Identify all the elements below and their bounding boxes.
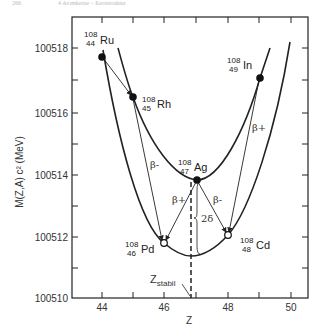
x-tick-label: 48	[222, 302, 234, 313]
left-ticks	[72, 48, 78, 268]
delta-label: 2δ	[201, 213, 213, 224]
svg-text:Cd: Cd	[256, 239, 270, 251]
decay-arrows	[103, 58, 259, 240]
label-cd: 108 48 Cd	[240, 236, 270, 254]
svg-text:Ag: Ag	[194, 161, 207, 173]
label-in: 108 49 In	[227, 56, 252, 74]
marker-ru	[98, 53, 106, 61]
z-stabil-label: Zstabil	[150, 273, 176, 288]
svg-text:48: 48	[242, 245, 251, 254]
marker-rh	[129, 93, 137, 101]
svg-text:108: 108	[240, 236, 254, 245]
y-tick-label: 100514	[35, 170, 69, 181]
chapter-title: 4 Atomkerne – Kernstruktur	[58, 0, 126, 6]
svg-text:108: 108	[125, 240, 139, 249]
x-tick-label: 46	[158, 302, 170, 313]
z-stabil-leader	[182, 284, 190, 296]
svg-text:47: 47	[180, 167, 189, 176]
y-axis-label: M(Z,A) c² (MeV)	[14, 136, 25, 208]
decay-label-in-cd: β+	[252, 122, 266, 133]
marker-in	[256, 74, 264, 82]
x-axis-label: Z	[186, 315, 192, 326]
label-pd: 108 46 Pd	[125, 240, 154, 258]
arrow-ag-cd	[198, 182, 226, 232]
top-ticks	[102, 17, 291, 23]
delta-brace	[194, 182, 200, 254]
x-tick-label: 50	[285, 302, 297, 313]
svg-text:108: 108	[84, 30, 98, 39]
right-ticks	[302, 48, 308, 268]
decay-label-ag-cd: β-	[213, 194, 222, 205]
svg-text:45: 45	[142, 104, 151, 113]
svg-text:108: 108	[178, 158, 192, 167]
bottom-ticks	[102, 292, 291, 298]
label-ag: 108 47 Ag	[178, 158, 207, 176]
decay-label-ag-pd: β+	[172, 194, 186, 205]
decay-label-rh-pd: β-	[150, 159, 159, 170]
svg-text:49: 49	[229, 65, 238, 74]
y-tick-label: 100516	[35, 108, 69, 119]
svg-text:In: In	[243, 59, 252, 71]
y-tick-label: 100510	[35, 293, 69, 304]
y-tick-label: 100512	[35, 232, 69, 243]
marker-cd	[225, 232, 232, 239]
page-number: 266	[12, 0, 21, 6]
marker-ag	[193, 176, 201, 184]
marker-pd	[161, 240, 168, 247]
x-tick-label: 44	[96, 302, 108, 313]
label-ru: 108 44 Ru	[84, 30, 114, 48]
svg-text:Rh: Rh	[157, 98, 171, 110]
y-tick-label: 100518	[35, 43, 69, 54]
label-rh: 108 45 Rh	[142, 95, 171, 113]
svg-text:44: 44	[86, 39, 95, 48]
svg-text:108: 108	[142, 95, 156, 104]
svg-text:Ru: Ru	[100, 34, 114, 46]
svg-text:46: 46	[127, 249, 136, 258]
chart: 266 4 Atomkerne – Kernstruktur 100518 10…	[0, 0, 322, 328]
svg-text:Pd: Pd	[141, 243, 154, 255]
svg-text:108: 108	[227, 56, 241, 65]
